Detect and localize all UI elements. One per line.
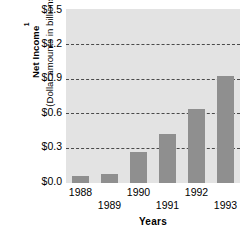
gridline: [66, 113, 240, 114]
x-axis-tick-labels: 1988 1989 1990 1991 1992 1993: [66, 183, 240, 217]
x-tick-label: 1989: [93, 199, 127, 211]
x-tick-label: 1992: [180, 186, 214, 198]
y-tick-label: $1.5: [22, 4, 62, 14]
x-tick-label: 1993: [209, 199, 243, 211]
bar: [101, 174, 117, 183]
x-tick-label: 1991: [151, 199, 185, 211]
x-tick-label: 1988: [64, 186, 98, 198]
bar-chart: Net Income1 (Dollar amounts in billions)…: [0, 0, 245, 238]
x-tick-label: 1990: [122, 186, 156, 198]
y-tick-label: $0.0: [22, 176, 62, 186]
plot-area: [66, 9, 240, 183]
bar: [130, 152, 146, 183]
y-tick-label: $0.9: [22, 72, 62, 82]
bar: [159, 134, 175, 183]
y-tick-label: $1.2: [22, 38, 62, 48]
y-tick-label: $0.6: [22, 107, 62, 117]
y-axis-tick-labels: $1.5 $1.2 $0.9 $0.6 $0.3 $0.0: [22, 0, 62, 238]
y-tick-label: $0.3: [22, 141, 62, 151]
bar: [188, 109, 204, 183]
gridline: [66, 79, 240, 80]
x-axis-title: Years: [66, 216, 240, 227]
bar: [72, 176, 88, 183]
gridline: [66, 44, 240, 45]
gridline: [66, 148, 240, 149]
bar: [217, 76, 233, 183]
